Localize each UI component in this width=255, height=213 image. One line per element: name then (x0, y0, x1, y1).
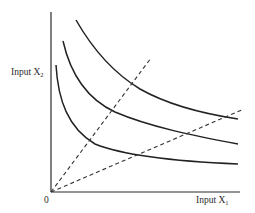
ray-steep (51, 58, 151, 192)
isoquant-diagram: Input X2 Input X1 0 (0, 0, 255, 213)
y-axis-label: Input X2 (11, 67, 44, 78)
origin-label: 0 (44, 195, 49, 205)
x-axis-label: Input X1 (196, 195, 229, 206)
isoquant-mid (63, 41, 238, 144)
ray-shallow (51, 109, 244, 192)
